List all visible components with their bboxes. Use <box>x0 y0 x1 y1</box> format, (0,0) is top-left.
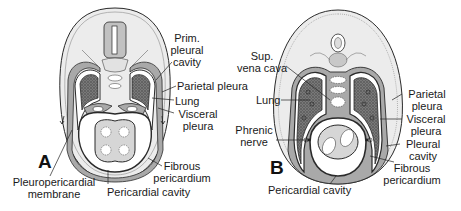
label-lung-b: Lung <box>256 94 280 106</box>
label-visceral-pleura-a: Visceral pleura <box>176 108 220 132</box>
label-fibrous-pericardium-a: Fibrous pericardium <box>150 160 214 184</box>
label-parietal-pleura-b: Parietal pleura <box>402 88 452 112</box>
label-pleuropericardial-membrane: Pleuropericardial membrane <box>4 176 104 200</box>
section-b <box>274 10 403 184</box>
section-a <box>50 8 176 184</box>
label-sup-vena-cava: Sup. vena cava <box>232 50 292 74</box>
label-pericardial-cavity-b: Pericardial cavity <box>268 184 351 196</box>
panel-letter-b: B <box>270 158 284 178</box>
label-fibrous-pericardium-b: Fibrous pericardium <box>380 162 444 186</box>
label-parietal-pleura-a: Parietal pleura <box>177 80 248 92</box>
panel-letter-a: A <box>38 152 52 172</box>
label-pericardial-cavity-a: Pericardial cavity <box>107 186 190 198</box>
label-phrenic-nerve: Phrenic nerve <box>232 124 276 148</box>
label-visceral-pleura-b: Visceral pleura <box>401 113 451 137</box>
label-pleural-cavity: Pleural cavity <box>400 138 446 162</box>
label-lung-a: Lung <box>175 95 199 107</box>
label-prim-pleural-cavity: Prim. pleural cavity <box>166 32 208 68</box>
